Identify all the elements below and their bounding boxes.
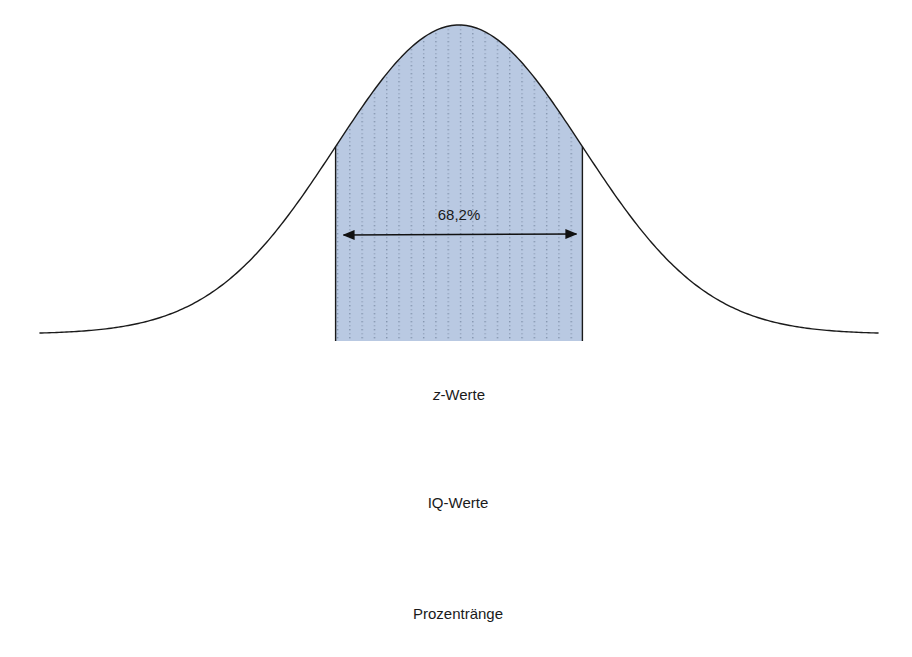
- shaded-area-68-percent: [336, 25, 583, 341]
- percentile-axis-title: Prozentränge: [413, 605, 503, 622]
- z-axis-title: z-Werte: [432, 386, 485, 403]
- normal-distribution-chart: 68,2% z-Werte IQ-Werte Prozentränge: [0, 0, 912, 657]
- iq-axis-title: IQ-Werte: [428, 494, 489, 511]
- range-arrow: [344, 234, 577, 235]
- percentage-annotation: 68,2%: [438, 206, 481, 223]
